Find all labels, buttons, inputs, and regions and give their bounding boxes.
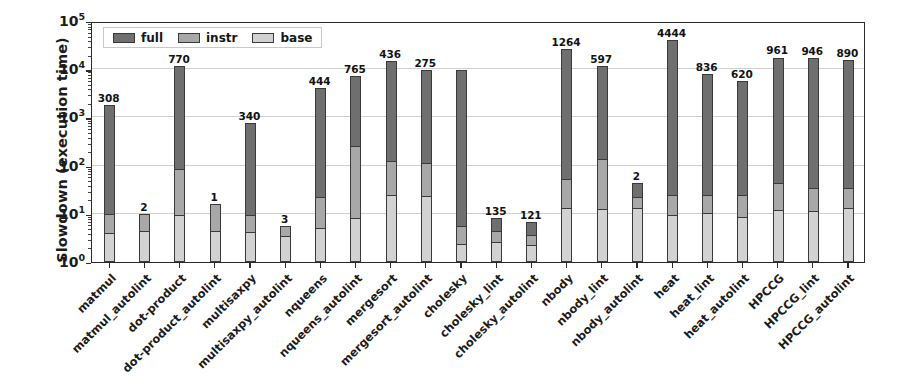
legend-swatch-base [252,33,274,43]
bar-value-label: 1 [211,191,218,203]
x-tick-mark [742,263,743,268]
bar-value-label: 597 [590,53,612,65]
legend-label: base [280,31,312,45]
bar-segment-base [491,242,502,262]
x-tick-mark [320,263,321,268]
bar-segment-base [139,231,150,262]
bar-value-label: 1264 [552,36,581,48]
bar-segment-base [174,215,185,262]
bar-segment-base [667,215,678,262]
x-tick-mark [531,263,532,268]
bar-segment-base [737,217,748,262]
bar-segment-base [526,245,537,262]
x-tick-mark [144,263,145,268]
x-tick-mark [285,263,286,268]
bar-value-label: 444 [309,75,331,87]
bar-value-label: 340 [239,110,261,122]
legend-entry-full: full [113,31,163,45]
bar-value-label: 4444 [657,27,686,39]
x-tick-mark [249,263,250,268]
x-tick-mark [636,263,637,268]
plot-inner [92,23,864,262]
x-tick-mark [566,263,567,268]
bar-value-label: 121 [520,209,542,221]
bar-value-label: 2 [140,201,147,213]
x-tick-mark [355,263,356,268]
legend: fullinstrbase [103,27,322,48]
y-tick-mark [86,263,91,264]
bar-value-label: 3 [281,213,288,225]
bar-segment-base [456,244,467,262]
bar-value-label: 135 [485,205,507,217]
y-tick-label: 103 [59,110,85,124]
plot-area [91,22,865,263]
bar-value-label: 890 [837,47,859,59]
bar-segment-base [843,208,854,262]
bar-segment-base [104,233,115,262]
x-tick-mark [777,263,778,268]
bar-segment-base [597,209,608,262]
x-tick-mark [109,263,110,268]
bar-segment-base [210,231,221,262]
bar-segment-base [702,213,713,262]
x-tick-mark [672,263,673,268]
legend-entry-instr: instr [178,31,237,45]
bar-value-label: 770 [168,53,190,65]
bar-segment-base [561,208,572,262]
bar-value-label: 836 [696,61,718,73]
bar-segment-base [315,228,326,263]
bar-segment-base [632,208,643,262]
legend-swatch-instr [178,33,200,43]
bar-value-label: 308 [98,92,120,104]
legend-swatch-full [113,33,135,43]
legend-label: instr [206,31,237,45]
bar-value-label: 961 [766,44,788,56]
bar-segment-base [808,211,819,262]
x-tick-mark [707,263,708,268]
bar-segment-base [245,232,256,262]
x-tick-mark [214,263,215,268]
bar-segment-base [280,236,291,262]
bar-value-label: 275 [414,57,436,69]
x-tick-mark [496,263,497,268]
legend-label: full [141,31,163,45]
x-tick-mark [847,263,848,268]
x-tick-mark [601,263,602,268]
y-tick-label: 105 [59,14,85,28]
x-tick-mark [812,263,813,268]
bar-segment-base [421,196,432,262]
bar-segment-base [386,195,397,262]
x-tick-mark [179,263,180,268]
chart-figure: Slowdown (execution time) 10010110210310… [0,0,902,388]
bar-value-label: 946 [801,45,823,57]
legend-entry-base: base [252,31,312,45]
x-tick-mark [425,263,426,268]
bar-value-label: 765 [344,63,366,75]
bar-segment-base [773,210,784,262]
x-tick-mark [460,263,461,268]
bar-value-label: 2 [633,170,640,182]
y-tick-label: 104 [59,62,85,76]
x-tick-mark [390,263,391,268]
y-axis-title: Slowdown (execution time) [54,20,70,280]
bar-value-label: 620 [731,68,753,80]
y-tick-label: 101 [59,207,85,221]
y-tick-label: 102 [59,159,85,173]
bar-value-label: 436 [379,48,401,60]
bar-segment-base [350,218,361,262]
y-tick-label: 100 [59,255,85,269]
